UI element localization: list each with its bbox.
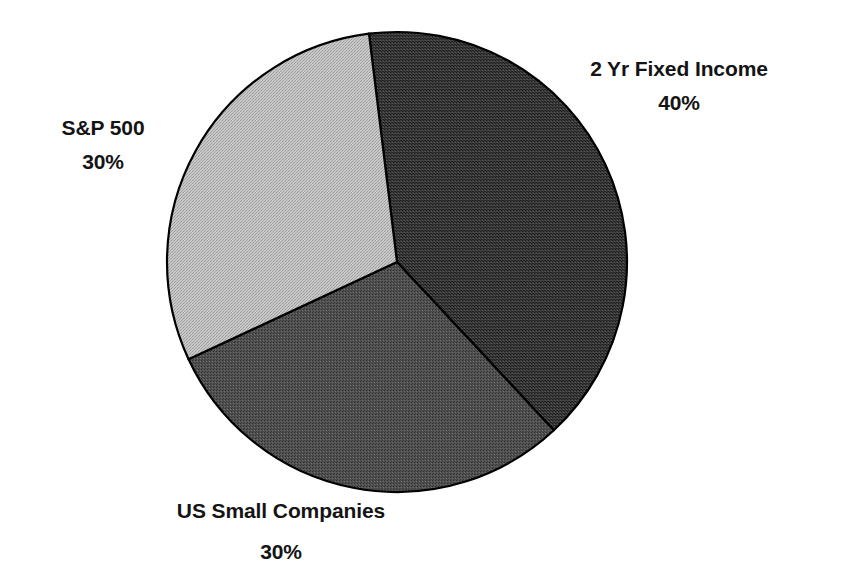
pie-label-us-small-companies: US Small Companies 30%	[101, 497, 461, 566]
pie-label-sp-500: S&P 500 30%	[8, 114, 198, 176]
pie-label-2-yr-fixed-income: 2 Yr Fixed Income 40%	[543, 55, 815, 117]
pie-label-2-yr-fixed-income-name: 2 Yr Fixed Income	[543, 55, 815, 82]
pie-label-us-small-companies-name: US Small Companies	[101, 497, 461, 524]
pie-label-2-yr-fixed-income-value: 40%	[543, 89, 815, 116]
pie-label-sp-500-value: 30%	[8, 148, 198, 175]
pie-label-us-small-companies-value: 30%	[101, 538, 461, 565]
pie-label-sp-500-name: S&P 500	[8, 114, 198, 141]
